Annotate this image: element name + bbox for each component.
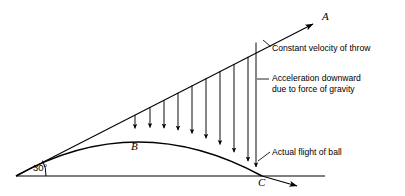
callout-actual-flight-text: Actual flight of ball: [272, 147, 342, 157]
point-label-a: A: [322, 10, 329, 22]
point-label-b: B: [131, 140, 138, 152]
callout-leader-actual-flight: [258, 152, 270, 161]
diagram-canvas: [0, 0, 405, 196]
trajectory-continuation-arrow: [262, 176, 297, 186]
callout-actual-flight: Actual flight of ball: [272, 147, 342, 158]
callout-constant-velocity: Constant velocity of throw: [272, 43, 370, 54]
launch-angle-label: 30°: [33, 162, 47, 173]
projectile-motion-diagram: Constant velocity of throw Acceleration …: [0, 0, 405, 196]
point-label-c: C: [258, 176, 265, 188]
gravity-drop-arrows: [135, 43, 256, 168]
trajectory-curve: [16, 142, 262, 176]
callout-leader-constant-velocity: [263, 40, 271, 47]
callout-acceleration-downward: Acceleration downward due to force of gr…: [272, 73, 361, 95]
callout-acceleration-line1: Acceleration downward: [272, 73, 361, 83]
callout-constant-velocity-text: Constant velocity of throw: [272, 43, 370, 53]
callout-acceleration-line2: due to force of gravity: [272, 84, 361, 95]
